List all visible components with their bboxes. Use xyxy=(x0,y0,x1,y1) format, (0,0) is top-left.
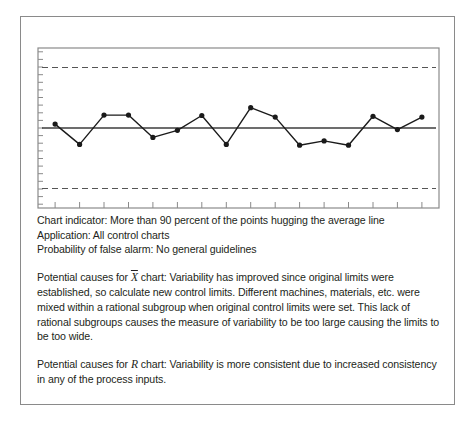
data-point xyxy=(297,143,302,148)
r-symbol: R xyxy=(131,358,138,371)
x-bar-symbol: X xyxy=(131,271,138,284)
control-chart-panel xyxy=(37,47,440,209)
data-point xyxy=(199,113,204,118)
r-causes-paragraph: Potential causes for R chart: Variabilit… xyxy=(37,357,442,387)
data-point xyxy=(175,128,180,133)
indicator-paragraph: Chart indicator: More than 90 percent of… xyxy=(37,213,442,257)
data-point xyxy=(101,113,106,118)
text-content-block: Chart indicator: More than 90 percent of… xyxy=(37,213,442,387)
paragraph-spacer-2 xyxy=(37,344,442,357)
application-line: Application: All control charts xyxy=(37,228,442,243)
data-point xyxy=(395,127,400,132)
data-point xyxy=(77,142,82,147)
data-point xyxy=(419,115,424,120)
paragraph-spacer-1 xyxy=(37,257,442,270)
data-point xyxy=(346,143,351,148)
data-point xyxy=(273,115,278,120)
false-alarm-line: Probability of false alarm: No general g… xyxy=(37,242,442,257)
data-point xyxy=(370,114,375,119)
figure-container: Chart indicator: More than 90 percent of… xyxy=(20,16,455,405)
chart-indicator-line: Chart indicator: More than 90 percent of… xyxy=(37,213,442,228)
data-point xyxy=(53,122,58,127)
xbar-causes-paragraph: Potential causes for X chart: Variabilit… xyxy=(37,270,442,344)
data-point xyxy=(248,105,253,110)
data-point xyxy=(322,138,327,143)
r-prefix-text: Potential causes for xyxy=(37,358,131,370)
xbar-prefix-text: Potential causes for xyxy=(37,271,131,283)
data-point xyxy=(126,113,131,118)
data-point xyxy=(150,135,155,140)
control-chart-svg xyxy=(37,47,440,209)
data-point xyxy=(224,142,229,147)
